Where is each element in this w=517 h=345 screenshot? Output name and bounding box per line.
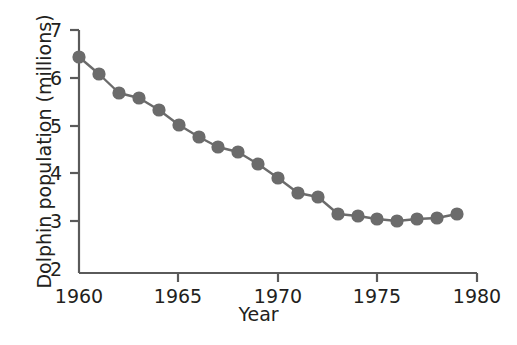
data-series-dolphin-population [72,50,463,227]
data-point [450,207,463,220]
data-point [172,118,185,131]
data-point [132,91,145,104]
data-point [72,50,85,63]
data-point [92,67,105,80]
series-line [79,57,457,221]
x-axis-title: Year [0,305,517,324]
x-axis-ticks [178,273,477,282]
y-axis-title: Dolphin population (millions) [35,12,54,292]
data-point [271,171,284,184]
data-point [231,145,244,158]
x-tick-label-1965: 1965 [143,287,213,306]
data-point [430,211,443,224]
data-point [311,190,324,203]
data-point [152,103,165,116]
data-point [331,207,344,220]
data-point [410,212,423,225]
data-point [291,186,304,199]
x-tick-label-1975: 1975 [342,287,412,306]
data-point [251,157,264,170]
series-markers [72,50,463,227]
axes [70,30,477,282]
data-point [211,140,224,153]
data-point [112,86,125,99]
data-point [351,209,364,222]
data-point [192,130,205,143]
dolphin-population-line-chart: 7 6 5 4 3 2 1960 1965 1970 1975 1980 Yea… [0,0,517,345]
x-tick-label-1980: 1980 [442,287,512,306]
data-point [390,214,403,227]
x-tick-label-1960: 1960 [44,287,114,306]
data-point [370,212,383,225]
